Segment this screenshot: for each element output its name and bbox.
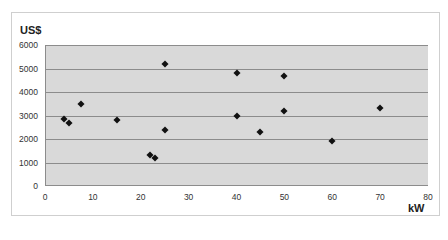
x-tick-label: 60 [322, 192, 342, 202]
gridline [46, 139, 428, 140]
x-tick-label: 30 [179, 192, 199, 202]
x-tick-label: 10 [83, 192, 103, 202]
x-tick-label: 70 [370, 192, 390, 202]
x-tick-label: 0 [35, 192, 55, 202]
gridline [46, 92, 428, 93]
x-tick-label: 80 [418, 192, 438, 202]
x-tick-label: 40 [227, 192, 247, 202]
gridline [46, 45, 428, 46]
y-tick-label: 2000 [8, 134, 38, 144]
x-axis-title: kW [408, 202, 425, 214]
y-tick-label: 6000 [8, 40, 38, 50]
y-tick-label: 4000 [8, 87, 38, 97]
y-tick-label: 0 [8, 181, 38, 191]
y-tick-label: 3000 [8, 111, 38, 121]
y-tick-label: 5000 [8, 64, 38, 74]
y-tick-label: 1000 [8, 158, 38, 168]
x-tick-label: 20 [131, 192, 151, 202]
y-axis-title: US$ [20, 24, 41, 36]
x-tick-label: 50 [274, 192, 294, 202]
gridline [46, 163, 428, 164]
